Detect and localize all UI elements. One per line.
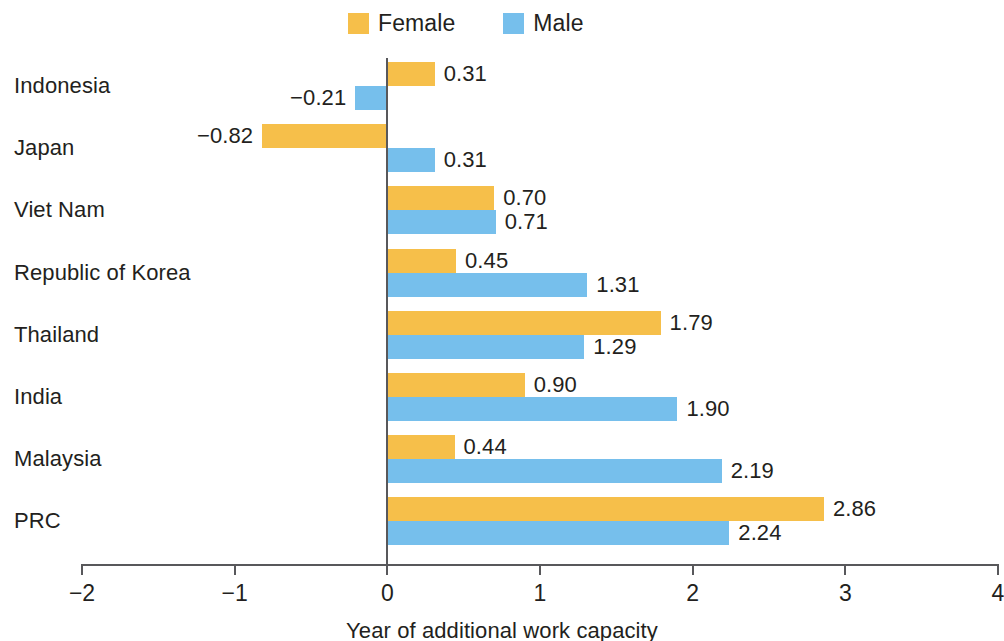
bar-value-label: 1.90 — [686, 398, 729, 420]
bar-value-label: 1.29 — [593, 336, 636, 358]
zero-reference-line — [386, 58, 388, 564]
bar-female[interactable] — [387, 186, 494, 210]
x-axis-tick — [844, 564, 846, 575]
bar-value-label: 0.70 — [503, 187, 546, 209]
bar-female[interactable] — [387, 435, 454, 459]
bar-value-label: 0.45 — [465, 250, 508, 272]
x-axis-title: Year of additional work capacity — [0, 620, 1004, 641]
bar-male[interactable] — [387, 459, 721, 483]
category-label: Indonesia — [14, 75, 110, 97]
bar-value-label: 0.44 — [464, 436, 507, 458]
chart-container: Female Male Indonesia0.31−0.21Japan−0.82… — [0, 0, 1004, 641]
category-label: Republic of Korea — [14, 262, 191, 284]
x-axis-tick — [386, 564, 388, 575]
bar-value-label: 0.31 — [444, 149, 487, 171]
bar-female[interactable] — [387, 373, 524, 397]
x-axis-tick — [539, 564, 541, 575]
x-axis-tick-label: −2 — [69, 582, 95, 605]
bar-female[interactable] — [387, 497, 824, 521]
bar-male[interactable] — [387, 397, 677, 421]
x-axis-tick — [234, 564, 236, 575]
bar-male[interactable] — [387, 148, 434, 172]
x-axis-tick-label: −1 — [222, 582, 248, 605]
bar-value-label: 1.31 — [596, 274, 639, 296]
category-label: Viet Nam — [14, 199, 105, 221]
x-axis-tick-label: 1 — [534, 582, 547, 605]
bar-female[interactable] — [262, 124, 387, 148]
bar-male[interactable] — [387, 273, 587, 297]
bar-male[interactable] — [355, 86, 387, 110]
bar-value-label: 0.90 — [534, 374, 577, 396]
category-label: PRC — [14, 510, 61, 532]
bar-value-label: 2.86 — [833, 498, 876, 520]
bar-value-label: 2.24 — [738, 522, 781, 544]
bar-male[interactable] — [387, 210, 495, 234]
x-axis-tick — [997, 564, 999, 575]
bar-value-label: 1.79 — [670, 312, 713, 334]
x-axis-tick — [81, 564, 83, 575]
bar-value-label: 2.19 — [731, 460, 774, 482]
bar-female[interactable] — [387, 249, 456, 273]
bar-male[interactable] — [387, 335, 584, 359]
category-label: Japan — [14, 137, 74, 159]
x-axis-tick-label: 2 — [686, 582, 699, 605]
x-axis-tick-label: 0 — [381, 582, 394, 605]
bar-value-label: 0.71 — [505, 211, 548, 233]
plot-area: Indonesia0.31−0.21Japan−0.820.31Viet Nam… — [0, 0, 1004, 641]
x-axis-tick — [692, 564, 694, 575]
x-axis-tick-label: 3 — [839, 582, 852, 605]
x-axis-tick-label: 4 — [992, 582, 1004, 605]
bar-value-label: 0.31 — [444, 63, 487, 85]
bar-female[interactable] — [387, 62, 434, 86]
category-label: India — [14, 386, 62, 408]
category-label: Thailand — [14, 324, 99, 346]
bar-value-label: −0.82 — [197, 125, 253, 147]
bar-value-label: −0.21 — [290, 87, 346, 109]
bar-male[interactable] — [387, 521, 729, 545]
bar-female[interactable] — [387, 311, 660, 335]
category-label: Malaysia — [14, 448, 102, 470]
